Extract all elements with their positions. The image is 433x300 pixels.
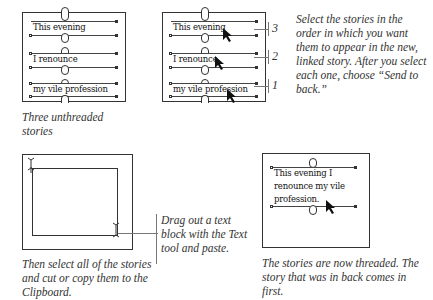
story-my-vile-profession[interactable]: my vile profession bbox=[32, 84, 109, 94]
arrow-cursor-icon bbox=[223, 28, 233, 42]
order-number-2: 2 bbox=[272, 49, 278, 64]
window-shade-handle[interactable] bbox=[309, 205, 317, 215]
text-ibeam-cursor-icon bbox=[28, 167, 36, 179]
paste-block-frame bbox=[22, 154, 133, 250]
story-i-renounce[interactable]: I renounce bbox=[32, 54, 79, 64]
caption-unthreaded: Three unthreaded stories bbox=[22, 110, 122, 138]
caption-select-order: Select the stories in the order in which… bbox=[296, 12, 430, 96]
story-this-evening[interactable]: This evening bbox=[172, 22, 227, 32]
window-shade-handle[interactable] bbox=[201, 33, 209, 43]
window-shade-handle[interactable] bbox=[61, 65, 69, 75]
window-shade-handle[interactable] bbox=[201, 95, 209, 103]
order-number-1: 1 bbox=[272, 78, 278, 93]
threaded-story-frame: This evening I renounce my vile professi… bbox=[262, 153, 370, 248]
window-shade-handle[interactable] bbox=[61, 33, 69, 43]
arrow-cursor-icon bbox=[215, 56, 225, 70]
window-shade-handle[interactable] bbox=[201, 65, 209, 75]
threaded-line-3[interactable]: profession. bbox=[273, 194, 320, 204]
arrow-cursor-icon bbox=[326, 200, 336, 214]
window-shade-handle[interactable] bbox=[201, 7, 209, 21]
window-shade-handle[interactable] bbox=[61, 7, 69, 21]
story-i-renounce[interactable]: I renounce bbox=[172, 54, 219, 64]
text-block-outline[interactable] bbox=[32, 168, 118, 236]
order-number-3: 3 bbox=[272, 21, 278, 36]
threaded-line-1[interactable]: This evening I bbox=[273, 168, 333, 178]
caption-paste-block: Then select all of the stories and cut o… bbox=[22, 257, 154, 299]
story-my-vile-profession[interactable]: my vile profession bbox=[172, 84, 249, 94]
callout-drag-text-block: Drag out a text block with the Text tool… bbox=[161, 213, 253, 255]
caption-threaded: The stories are now threaded. The story … bbox=[262, 256, 422, 298]
text-ibeam-cursor-icon bbox=[113, 223, 121, 237]
arrow-cursor-icon bbox=[227, 89, 237, 103]
window-shade-handle[interactable] bbox=[61, 95, 69, 103]
select-order-frame: This evening I renounce my vile professi… bbox=[162, 12, 266, 102]
story-this-evening[interactable]: This evening bbox=[32, 22, 87, 32]
unthreaded-stories-frame: This evening I renounce my vile professi… bbox=[22, 12, 126, 102]
threaded-line-2[interactable]: renounce my vile bbox=[273, 181, 346, 191]
